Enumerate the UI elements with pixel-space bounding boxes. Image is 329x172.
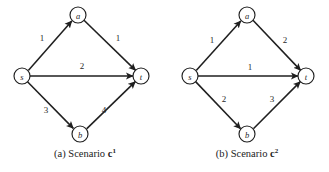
edge-labels-group-b: 1 2 1 2 3 <box>210 35 288 104</box>
edge-label-s-b: 3 <box>44 105 49 115</box>
edge-label-b-t: 4 <box>102 105 107 115</box>
edge-label-a-t: 2 <box>283 35 288 45</box>
edge-label-a-t: 1 <box>116 33 121 43</box>
edge-label-s-t: 1 <box>248 62 253 72</box>
node-label-a: a <box>76 11 80 21</box>
edge-label-b-t: 3 <box>270 94 275 104</box>
edge-label-s-b: 2 <box>222 94 227 104</box>
edge-label-s-a: 1 <box>40 33 45 43</box>
figure-panel-a: s a t b 1 1 2 3 4 (a) Scenario c1 <box>0 0 170 172</box>
panel-caption-a: (a) Scenario c1 <box>0 148 170 159</box>
edge-labels-group-a: 1 1 2 3 4 <box>40 33 121 115</box>
edge-label-s-t: 2 <box>80 61 85 71</box>
panel-caption-b: (b) Scenario c2 <box>165 148 329 159</box>
edge-label-s-a: 1 <box>210 35 215 45</box>
figure-container: s a t b 1 1 2 3 4 (a) Scenario c1 <box>0 0 329 172</box>
caption-superscript-a: 1 <box>112 147 116 155</box>
edge-s-b <box>28 82 74 129</box>
nodes-group-a: s a t b <box>14 7 149 142</box>
edge-b-t <box>253 82 300 129</box>
edge-a-t <box>253 20 301 70</box>
graph-diagram-a: s a t b 1 1 2 3 4 <box>0 0 170 148</box>
caption-prefix-a: (a) Scenario <box>54 148 105 159</box>
node-label-b: b <box>78 130 82 140</box>
figure-panel-b: s a t b 1 2 1 2 3 (b) Scenario c2 <box>165 0 329 172</box>
edge-a-t <box>84 20 136 70</box>
caption-prefix-b: (b) Scenario <box>216 148 268 159</box>
node-label-b: b <box>245 130 249 140</box>
graph-diagram-b: s a t b 1 2 1 2 3 <box>165 0 329 148</box>
node-label-a: a <box>245 11 249 21</box>
edge-s-a <box>28 21 72 71</box>
edge-s-b <box>196 82 241 129</box>
edge-s-a <box>196 21 241 70</box>
edge-b-t <box>87 82 136 129</box>
caption-superscript-b: 2 <box>275 147 279 155</box>
nodes-group-b: s a t b <box>182 7 314 142</box>
